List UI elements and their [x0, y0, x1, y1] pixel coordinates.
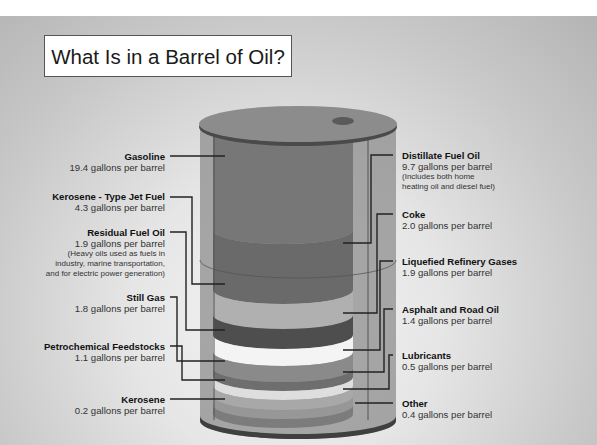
- barrel-diagram: [0, 0, 597, 445]
- label-petrochemical-feedstocks: Petrochemical Feedstocks 1.1 gallons per…: [44, 341, 165, 363]
- barrel-lid: [199, 106, 397, 146]
- label-kerosene-jet-fuel: Kerosene - Type Jet Fuel 4.3 gallons per…: [52, 191, 165, 213]
- label-kerosene: Kerosene 0.2 gallons per barrel: [75, 394, 165, 416]
- label-other: Other 0.4 gallons per barrel: [402, 398, 492, 420]
- label-gasoline: Gasoline 19.4 gallons per barrel: [70, 151, 165, 173]
- label-distillate-fuel-oil: Distillate Fuel Oil 9.7 gallons per barr…: [402, 150, 495, 192]
- label-residual-fuel-oil: Residual Fuel Oil 1.9 gallons per barrel…: [46, 227, 165, 279]
- label-asphalt-road-oil: Asphalt and Road Oil 1.4 gallons per bar…: [402, 304, 499, 326]
- barrel-bands: [213, 130, 353, 428]
- label-lubricants: Lubricants 0.5 gallons per barrel: [402, 350, 492, 372]
- bung-hole-icon: [332, 117, 354, 125]
- label-coke: Coke 2.0 gallons per barrel: [402, 209, 492, 231]
- label-still-gas: Still Gas 1.8 gallons per barrel: [75, 292, 165, 314]
- label-liquefied-refinery-gases: Liquefied Refinery Gases 1.9 gallons per…: [402, 256, 517, 278]
